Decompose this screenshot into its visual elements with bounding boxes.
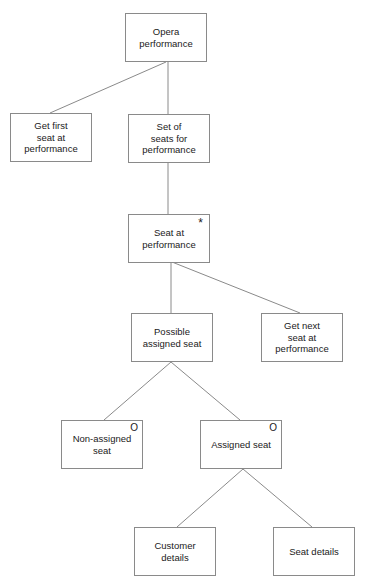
tree-connectors bbox=[0, 0, 375, 588]
node-set-of-seats: Set of seats for performance bbox=[128, 114, 210, 163]
node-opera-performance: Opera performance bbox=[125, 13, 207, 62]
iteration-mark: * bbox=[198, 218, 203, 228]
node-possible-assigned-seat: Possible assigned seat bbox=[131, 313, 213, 362]
node-label: Seat at performance bbox=[142, 227, 195, 250]
node-label: Assigned seat bbox=[211, 439, 271, 451]
node-label: Get first seat at performance bbox=[24, 120, 77, 155]
node-label: Seat details bbox=[289, 546, 339, 558]
selection-mark: O bbox=[269, 423, 277, 433]
node-label: Non-assigned seat bbox=[73, 433, 132, 456]
node-get-next-seat: Get next seat at performance bbox=[261, 313, 343, 362]
node-label: Opera performance bbox=[139, 26, 192, 49]
edge-seat-at-get-next bbox=[172, 262, 300, 313]
node-seat-at-performance: * Seat at performance bbox=[128, 214, 210, 263]
node-label: Set of seats for performance bbox=[142, 121, 195, 156]
node-get-first-seat: Get first seat at performance bbox=[10, 113, 92, 162]
node-label: Possible assigned seat bbox=[143, 326, 202, 349]
selection-mark: O bbox=[130, 423, 138, 433]
edge-assigned-seat-details bbox=[243, 469, 312, 527]
node-label: Customer details bbox=[154, 540, 195, 563]
edge-possible-assigned bbox=[171, 362, 240, 420]
edge-opera-get-first bbox=[50, 62, 166, 113]
edge-possible-non-assigned bbox=[104, 362, 171, 420]
node-non-assigned-seat: O Non-assigned seat bbox=[61, 420, 143, 469]
edge-assigned-customer bbox=[177, 469, 243, 527]
node-customer-details: Customer details bbox=[134, 527, 216, 576]
node-label: Get next seat at performance bbox=[275, 320, 328, 355]
node-seat-details: Seat details bbox=[273, 527, 355, 576]
node-assigned-seat: O Assigned seat bbox=[200, 420, 282, 469]
